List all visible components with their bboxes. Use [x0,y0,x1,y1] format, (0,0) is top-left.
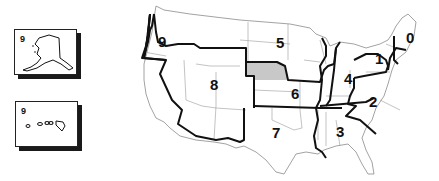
district-label-5: 5 [276,34,284,51]
district-label-0: 0 [406,29,414,46]
hawaii-shape-icon [16,102,77,146]
district-label-6: 6 [291,85,299,102]
alaska-inset: 9 [14,29,77,75]
us-outline [144,6,416,174]
district-label-9: 9 [158,33,166,50]
district-label-2: 2 [369,93,377,110]
district-label-1: 1 [375,50,383,67]
district-label-4: 4 [344,70,353,87]
district-label-8: 8 [210,76,218,93]
alaska-shape-icon [15,30,76,74]
district-label-3: 3 [336,123,344,140]
us-district-map: 0 1 2 3 4 5 6 7 8 9 [140,0,439,181]
hawaii-inset: 9 [15,101,78,147]
district-label-7: 7 [272,124,280,141]
